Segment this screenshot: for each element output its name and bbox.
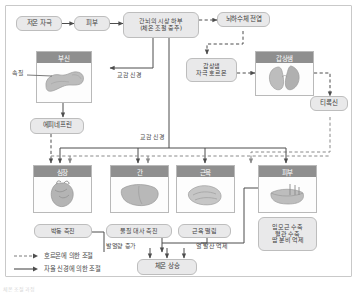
label-sympathetic-organs: 교감 신경 [140,134,164,141]
card-muscle-title: 근육 [177,166,234,177]
heart-illustration [34,177,91,212]
legend-solid-arrow-icon [14,265,40,273]
label-heat-loss: 열 발산 억제 [196,243,228,250]
effect-heart: 박동 촉진 [34,224,92,238]
legend-dashed-arrow-icon [14,252,40,260]
card-skin-title: 피부 [259,166,316,177]
diagram-canvas: 저온 자극 피부 간뇌의 시상 하부 (체온 조절 중추) 뇌하수체 전엽 갑상… [0,0,361,299]
medulla-leader-line [27,75,52,76]
effect-muscle: 근육 떨림 [178,224,231,238]
liver-illustration [111,177,168,212]
legend: 호르몬에 의한 조절 자율 신경에 의한 조절 [14,249,132,277]
effect-skin-line3: 땀 분비 억제 [272,237,304,244]
card-skin: 피부 [258,165,317,213]
skin-illustration [259,177,316,212]
figure-caption: 체온 조절 과정 [3,285,35,292]
node-result: 체온 상승 [137,259,197,275]
card-heart-title: 심장 [34,166,91,177]
label-sympathetic-adrenal: 교감 신경 [117,72,141,79]
card-liver: 간 [110,165,169,213]
card-liver-title: 간 [111,166,168,177]
legend-label-hormone: 호르몬에 의한 조절 [44,251,93,260]
effect-skin: 입모근 수축 혈관 수축 땀 분비 억제 [258,217,317,251]
card-muscle: 근육 [176,165,235,213]
legend-row-autonomic: 자율 신경에 의한 조절 [14,262,132,275]
muscle-illustration [177,177,234,212]
node-epinephrine: 에피네프린 [30,118,84,134]
legend-row-hormone: 호르몬에 의한 조절 [14,249,132,262]
card-heart: 심장 [33,165,92,213]
effect-liver: 물질 대사 촉진 [106,224,172,238]
legend-label-autonomic: 자율 신경에 의한 조절 [44,264,100,273]
